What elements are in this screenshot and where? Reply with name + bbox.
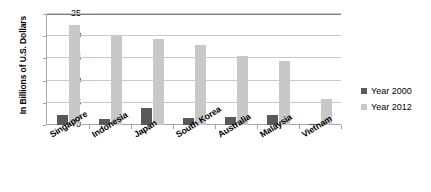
x-axis-tick-mark [173, 125, 174, 129]
gridline [47, 13, 341, 14]
x-axis-tick-mark [131, 125, 132, 129]
legend-item-year-2000: Year 2000 [361, 83, 431, 99]
legend-label: Year 2012 [371, 102, 412, 112]
x-axis-tick-mark [299, 125, 300, 129]
legend-label: Year 2000 [371, 86, 412, 96]
x-axis-tick-mark [257, 125, 258, 129]
x-axis-tick-mark [341, 125, 342, 129]
y-axis-tick-mark [43, 125, 46, 126]
x-axis-tick-mark [215, 125, 216, 129]
plot-area [46, 14, 341, 125]
x-axis-tick-mark [89, 125, 90, 129]
bar-chart: In Billions of U.S. Dollars 0510152025 S… [0, 0, 431, 192]
legend: Year 2000Year 2012 [361, 83, 431, 115]
bar-japan-year-2012 [153, 39, 164, 125]
legend-swatch-icon [361, 104, 367, 110]
legend-swatch-icon [361, 88, 367, 94]
bar-singapore-year-2012 [69, 25, 80, 125]
gridline [47, 35, 341, 36]
y-axis-title: In Billions of U.S. Dollars [18, 0, 28, 130]
plot-top-border [47, 14, 341, 15]
legend-item-year-2012: Year 2012 [361, 99, 431, 115]
